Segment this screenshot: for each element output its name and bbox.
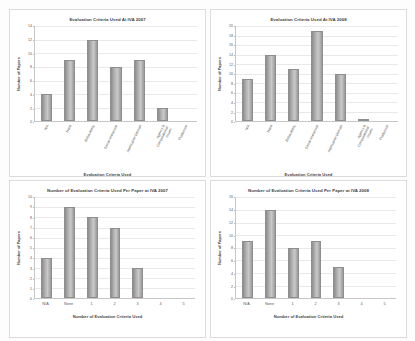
- bar-slot: [259, 26, 282, 121]
- y-tick-label: 6: [30, 236, 32, 240]
- x-tick-label: 4: [149, 299, 172, 309]
- y-tick-label: 7: [30, 226, 32, 230]
- x-tick-label: Believability: [282, 122, 305, 168]
- bar-series: [35, 197, 195, 298]
- bar: [288, 248, 299, 299]
- bar-slot: [104, 26, 127, 121]
- x-tick-label: Agency & Computational Issues: [150, 122, 173, 168]
- bar-slot: [282, 26, 305, 121]
- bar: [110, 228, 121, 299]
- bar-slot: [58, 197, 81, 298]
- plot-area: Number of Papers 0246810121416: [215, 197, 396, 299]
- chart-title: Evaluation Criteria Used At IVA 2007: [10, 10, 205, 22]
- bar: [87, 217, 98, 298]
- bar-slot: [81, 197, 104, 298]
- bar-slot: [172, 197, 195, 298]
- bar: [265, 210, 276, 298]
- y-axis-ticks: 02468101214: [23, 26, 34, 122]
- y-tick-label: 0: [30, 120, 32, 124]
- y-tick-label: 5: [30, 246, 32, 250]
- bar: [132, 268, 143, 298]
- bar: [64, 60, 75, 121]
- y-axis-ticks: 0246810121416: [224, 197, 235, 299]
- y-tick-label: 2: [231, 111, 233, 115]
- plot-canvas: [34, 26, 197, 122]
- bar-slot: [350, 197, 373, 298]
- y-tick-label: 0: [231, 297, 233, 301]
- bar: [87, 40, 98, 121]
- y-tick-label: 3: [30, 267, 32, 271]
- bar: [242, 79, 253, 122]
- bar-slot: [373, 197, 396, 298]
- chart-title: Number of Evaluation Criteria Used Per P…: [211, 181, 406, 193]
- bar-series: [35, 26, 197, 121]
- chart-panel-iva-2008-criteria: Evaluation Criteria Used At IVA 2008 Num…: [210, 9, 407, 177]
- x-tick-label: 3: [126, 299, 149, 309]
- y-tick-label: 10: [229, 72, 233, 76]
- x-axis-label: Evaluation Criteria Used: [10, 172, 205, 177]
- bar: [41, 258, 52, 298]
- bar: [64, 207, 75, 298]
- y-tick-label: 16: [229, 195, 233, 199]
- y-axis-label: Number of Papers: [14, 197, 23, 299]
- x-axis-categories: N/ANoneBelievabilitySocial InteractionAp…: [34, 122, 197, 168]
- bar-slot: [236, 26, 259, 121]
- y-tick-label: 10: [229, 234, 233, 238]
- x-axis-label: Evaluation Criteria Used: [211, 172, 406, 177]
- bar-slot: [128, 26, 151, 121]
- y-tick-label: 4: [30, 93, 32, 97]
- bar: [311, 241, 322, 298]
- y-tick-label: 18: [229, 34, 233, 38]
- bar-slot: [305, 26, 328, 121]
- bar-series: [236, 197, 396, 298]
- x-tick-label: 5: [172, 299, 195, 309]
- x-tick-label: Production: [375, 122, 398, 168]
- chart-panel-iva-2007-per-paper: Number of Evaluation Criteria Used Per P…: [9, 180, 206, 338]
- x-tick-label: Agency & Computational Issues: [351, 122, 374, 168]
- plot-area: Number of Papers 02468101214: [14, 26, 197, 122]
- bar-slot: [329, 26, 352, 121]
- chart-panel-iva-2008-per-paper: Number of Evaluation Criteria Used Per P…: [210, 180, 407, 338]
- chart-title: Evaluation Criteria Used At IVA 2008: [211, 10, 406, 22]
- x-axis-label: Number of Evaluation Criteria Used: [10, 314, 205, 319]
- bar-slot: [58, 26, 81, 121]
- x-tick-label: None: [57, 122, 80, 168]
- y-tick-label: 16: [229, 43, 233, 47]
- bar-slot: [151, 26, 174, 121]
- figure-page: Evaluation Criteria Used At IVA 2007 Num…: [0, 0, 415, 341]
- y-tick-label: 12: [229, 63, 233, 67]
- chart-grid: Evaluation Criteria Used At IVA 2007 Num…: [0, 0, 415, 338]
- bar-slot: [282, 197, 305, 298]
- y-tick-label: 0: [231, 120, 233, 124]
- x-tick-label: 3: [327, 299, 350, 309]
- bar-slot: [305, 197, 328, 298]
- y-tick-label: 9: [30, 205, 32, 209]
- bar: [157, 108, 168, 122]
- bar: [288, 69, 299, 121]
- bar: [333, 267, 344, 299]
- x-tick-label: N/A: [235, 122, 258, 168]
- bar-slot: [327, 197, 350, 298]
- y-axis-label: Number of Papers: [14, 26, 23, 122]
- bar-series: [236, 26, 398, 121]
- x-tick-label: 2: [103, 299, 126, 309]
- y-tick-label: 6: [30, 79, 32, 83]
- y-axis-ticks: 02468101214161820: [224, 26, 235, 122]
- bar-slot: [104, 197, 127, 298]
- y-tick-label: 6: [231, 91, 233, 95]
- y-tick-label: 8: [231, 246, 233, 250]
- x-tick-label: 1: [80, 299, 103, 309]
- x-tick-label: None: [258, 122, 281, 168]
- y-axis-label: Number of Papers: [215, 26, 224, 122]
- bar-slot: [35, 26, 58, 121]
- x-tick-label: Application Domain: [328, 122, 351, 168]
- x-tick-label: Believability: [81, 122, 104, 168]
- y-tick-label: 14: [229, 53, 233, 57]
- bar: [335, 74, 346, 122]
- x-tick-label: Production: [174, 122, 197, 168]
- y-tick-label: 4: [30, 256, 32, 260]
- x-tick-label: None: [258, 299, 281, 309]
- bar-slot: [375, 26, 398, 121]
- bar-slot: [126, 197, 149, 298]
- plot-area: Number of Papers 012345678910: [14, 197, 195, 299]
